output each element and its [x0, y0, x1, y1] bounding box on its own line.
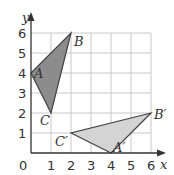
svg-text:3: 3 [87, 158, 95, 173]
svg-text:2: 2 [67, 158, 75, 173]
svg-text:2: 2 [18, 106, 26, 121]
svg-text:1: 1 [18, 126, 26, 141]
vertex-label-c-prime: C′ [55, 134, 68, 149]
svg-text:4: 4 [107, 158, 115, 173]
vertex-label-b-prime: B′ [153, 107, 167, 122]
svg-text:4: 4 [18, 66, 26, 81]
x-tick-labels: 1 2 3 4 5 6 [47, 158, 155, 173]
svg-text:5: 5 [18, 46, 26, 61]
vertex-label-b: B [73, 34, 84, 49]
origin-label: 0 [19, 158, 27, 173]
y-axis-label: y [21, 10, 30, 25]
svg-text:6: 6 [147, 158, 155, 173]
vertex-label-a: A [33, 66, 43, 81]
y-tick-labels: 1 2 3 4 5 6 [18, 26, 26, 141]
svg-text:6: 6 [18, 26, 26, 41]
svg-text:5: 5 [127, 158, 135, 173]
coordinate-plane: y x 0 1 2 3 4 5 6 1 2 3 4 5 6 A B C A′ B… [0, 0, 174, 175]
x-axis-label: x [160, 157, 168, 172]
svg-text:3: 3 [18, 86, 26, 101]
svg-text:1: 1 [47, 158, 55, 173]
vertex-label-c: C [40, 113, 50, 128]
vertex-label-a-prime: A′ [112, 140, 125, 155]
